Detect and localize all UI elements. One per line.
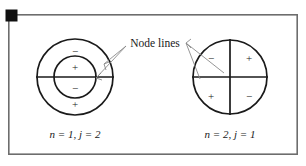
- node-lines-annotation: Node lines: [130, 37, 180, 49]
- right-sign-bottom-left: +: [208, 90, 214, 102]
- black-square-marker: [6, 10, 17, 21]
- left-sign-inner-bottom: −: [72, 82, 78, 94]
- diagram-left: − + − + n = 1, j = 2: [36, 39, 114, 140]
- left-sign-outer-bottom: +: [72, 98, 78, 110]
- diagram-right: − + + − n = 2, j = 1: [192, 39, 268, 140]
- left-sign-outer-top: −: [72, 45, 78, 57]
- leader-right-arrowhead: [186, 39, 191, 48]
- left-sign-inner-top: +: [72, 61, 78, 73]
- figure-container: − + − + n = 1, j = 2 − + + − n = 2, j = …: [0, 0, 306, 166]
- right-mode-label: n = 2, j = 1: [205, 128, 256, 140]
- right-sign-top-left: −: [208, 52, 214, 64]
- left-mode-label: n = 1, j = 2: [50, 128, 101, 140]
- right-sign-top-right: +: [246, 52, 252, 64]
- right-sign-bottom-right: −: [246, 90, 252, 102]
- node-lines-figure: − + − + n = 1, j = 2 − + + − n = 2, j = …: [0, 0, 306, 166]
- leader-left-inner-line: [104, 46, 126, 64]
